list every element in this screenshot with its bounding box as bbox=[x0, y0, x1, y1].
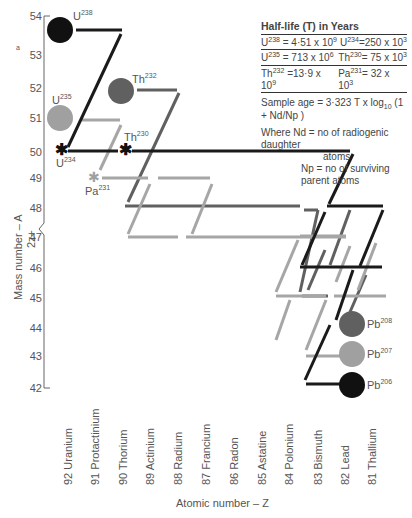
svg-text:53: 53 bbox=[30, 49, 42, 61]
svg-text:43: 43 bbox=[30, 350, 42, 362]
pb208-node bbox=[339, 311, 365, 337]
svg-text:U234: U234 bbox=[56, 156, 76, 169]
svg-text:44: 44 bbox=[30, 322, 42, 334]
svg-text:Pb206: Pb206 bbox=[367, 378, 392, 391]
svg-text:89 Actinium: 89 Actinium bbox=[144, 428, 156, 485]
age-formula: Sample age = 3·323 T x log10 (1 + Nd/Np … bbox=[261, 97, 407, 121]
svg-text:45: 45 bbox=[30, 292, 42, 304]
u238-node bbox=[47, 17, 73, 43]
svg-text:51: 51 bbox=[30, 112, 42, 124]
svg-text:87 Francium: 87 Francium bbox=[200, 424, 212, 485]
legend-row: U235 = 713 x 106 Th230= 75 x 103 bbox=[261, 50, 407, 65]
svg-text:50: 50 bbox=[30, 146, 42, 158]
legend-row: Th232 =13·9 x 109 Pa231= 32 x 103 bbox=[261, 66, 407, 94]
pb207-node bbox=[339, 341, 365, 367]
legend-title: Half-life (T) in Years bbox=[261, 20, 407, 35]
svg-text:Th230: Th230 bbox=[124, 130, 149, 143]
svg-text:Th232: Th232 bbox=[132, 72, 157, 85]
y-axis-top-mark: a bbox=[16, 44, 20, 51]
svg-text:Pb208: Pb208 bbox=[367, 317, 392, 330]
svg-text:88 Radium: 88 Radium bbox=[172, 432, 184, 485]
formula-definitions: Where Nd = no of radiogenic daughter ato… bbox=[261, 127, 407, 187]
y-tick-labels: 54 53 52 51 50 49 48 47 46 45 44 43 42 bbox=[30, 10, 42, 394]
y-axis-title: Mass number – A bbox=[12, 214, 24, 300]
svg-text:86 Radon: 86 Radon bbox=[228, 437, 240, 485]
svg-text:85 Astatine: 85 Astatine bbox=[256, 431, 268, 485]
svg-text:82 Lead: 82 Lead bbox=[339, 445, 351, 485]
u235-node bbox=[47, 105, 73, 131]
half-life-legend: Half-life (T) in Years U238 = 4·51 x 109… bbox=[261, 20, 407, 187]
y-axis-subtitle: 2z+ bbox=[25, 230, 37, 248]
svg-text:54: 54 bbox=[30, 10, 42, 22]
svg-text:49: 49 bbox=[30, 172, 42, 184]
x-axis-title: Atomic number – Z bbox=[176, 497, 269, 509]
y-axis-title-group: Mass number – A bbox=[12, 214, 24, 300]
svg-text:Pa231: Pa231 bbox=[85, 184, 110, 197]
pb206-node bbox=[339, 372, 365, 398]
svg-text:81 Thallium: 81 Thallium bbox=[366, 428, 378, 485]
svg-text:U235: U235 bbox=[52, 93, 72, 106]
x-axis-labels: 92 Uranium 91 Protactinium 90 Thorium 89… bbox=[62, 409, 378, 485]
svg-text:42: 42 bbox=[30, 382, 42, 394]
svg-text:83 Bismuth: 83 Bismuth bbox=[312, 430, 324, 485]
svg-text:92 Uranium: 92 Uranium bbox=[62, 428, 74, 485]
th232-node bbox=[108, 78, 134, 104]
svg-text:84 Polonium: 84 Polonium bbox=[283, 424, 295, 485]
th230-star-icon: ✱ bbox=[119, 141, 132, 158]
pa231-star-icon: ✱ bbox=[88, 169, 100, 185]
svg-text:Pb207: Pb207 bbox=[367, 347, 392, 360]
svg-text:52: 52 bbox=[30, 82, 42, 94]
svg-text:46: 46 bbox=[30, 262, 42, 274]
svg-text:91 Protactinium: 91 Protactinium bbox=[89, 409, 101, 485]
svg-text:48: 48 bbox=[30, 202, 42, 214]
svg-text:U238: U238 bbox=[73, 9, 93, 22]
svg-text:90 Thorium: 90 Thorium bbox=[117, 430, 129, 485]
legend-row: U238 = 4·51 x 109 U234=250 x 103 bbox=[261, 35, 407, 50]
